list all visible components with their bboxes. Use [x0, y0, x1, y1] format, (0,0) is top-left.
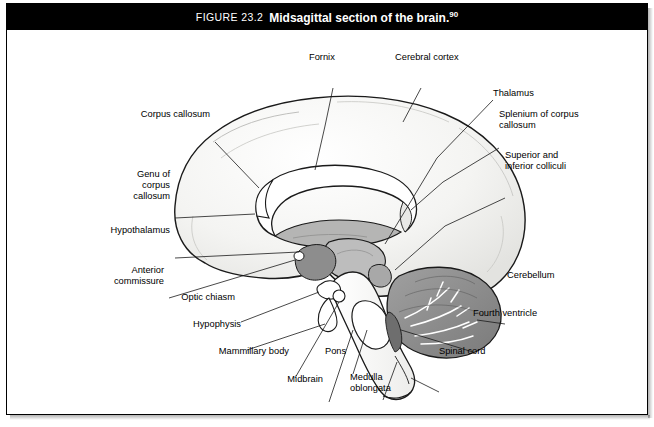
label-optic-chiasm: Optic chiasm	[67, 292, 235, 303]
label-mammillary-body: Mammillary body	[107, 346, 289, 357]
figure-title-superscript: 90	[449, 10, 458, 19]
colliculi-shape	[368, 264, 391, 287]
label-spinal-cord: Spinal cord	[439, 346, 486, 357]
figure-header-bar: FIGURE 23.2 Midsagittal section of the b…	[7, 4, 647, 30]
label-hypothalamus: Hypothalamus	[42, 225, 170, 236]
anterior-commissure-shape	[294, 252, 304, 261]
mammillary-body-shape	[333, 290, 345, 302]
label-fourth-ventricle: Fourth ventricle	[473, 308, 537, 319]
label-splenium-line2: callosum	[499, 120, 536, 131]
brain-midsagittal-illustration	[7, 30, 647, 415]
label-thalamus: Thalamus	[493, 88, 534, 99]
label-cerebellum: Cerebellum	[507, 270, 555, 281]
figure-page: FIGURE 23.2 Midsagittal section of the b…	[0, 0, 654, 427]
leader-spinal-cord	[411, 378, 439, 392]
label-splenium-line1: Splenium of corpus	[499, 109, 579, 120]
figure-title: Midsagittal section of the brain.90	[269, 10, 458, 25]
label-pons: Pons	[325, 346, 346, 357]
diagram-area: Fornix Cerebral cortex Thalamus Corpus c…	[7, 30, 647, 415]
label-corpus-callosum: Corpus callosum	[72, 109, 210, 120]
label-anterior-commissure-line2: commissure	[42, 276, 164, 287]
label-colliculi-line2: inferior colliculi	[505, 161, 566, 172]
page-shadow-right	[648, 8, 653, 418]
figure-frame: FIGURE 23.2 Midsagittal section of the b…	[6, 3, 648, 415]
leader-mammillary-body	[295, 302, 339, 378]
figure-title-text: Midsagittal section of the brain.	[269, 11, 449, 25]
figure-number: FIGURE 23.2	[196, 11, 263, 23]
label-medulla-line1: Medulla	[350, 372, 383, 383]
label-anterior-commissure-line1: Anterior	[42, 265, 164, 276]
label-colliculi-line1: Superior and	[505, 150, 558, 161]
page-shadow-bottom	[10, 415, 650, 420]
label-cerebral-cortex: Cerebral cortex	[395, 52, 459, 63]
label-midbrain: Midbrain	[189, 374, 323, 385]
label-genu-line3: callosum	[42, 191, 170, 202]
hypothalamus-shape	[295, 245, 336, 281]
leader-optic-chiasm	[241, 292, 319, 322]
label-medulla-line2: oblongata	[350, 383, 391, 394]
label-genu-line1: Genu of	[42, 169, 170, 180]
label-hypophysis: Hypophysis	[87, 319, 241, 330]
label-fornix: Fornix	[309, 52, 335, 63]
label-genu-line2: corpus	[42, 180, 170, 191]
